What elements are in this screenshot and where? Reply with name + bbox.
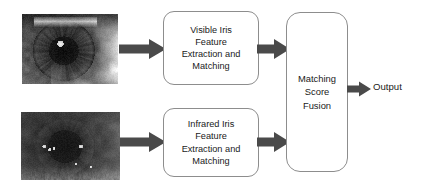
visible-processing-line-4: Matching xyxy=(192,60,229,72)
infrared-processing-box: Infrared Iris Feature Extraction and Mat… xyxy=(163,108,259,177)
arrow-fusion-to-output xyxy=(347,81,371,97)
visible-iris-image xyxy=(22,14,118,84)
fusion-line-1: Matching xyxy=(298,72,336,86)
infrared-processing-line-1: Infrared Iris xyxy=(188,118,234,130)
infrared-processing-line-4: Matching xyxy=(192,155,229,167)
matching-score-fusion-box: Matching Score Fusion xyxy=(286,12,348,172)
visible-processing-line-1: Visible Iris xyxy=(190,24,232,36)
arrow-infrared-image-to-processing xyxy=(120,131,166,153)
infrared-iris-canvas xyxy=(21,112,120,180)
output-label: Output xyxy=(373,80,402,94)
iris-fusion-diagram: Visible Iris Feature Extraction and Matc… xyxy=(0,0,427,190)
visible-processing-box: Visible Iris Feature Extraction and Matc… xyxy=(163,11,259,85)
visible-iris-canvas xyxy=(22,14,118,84)
infrared-processing-line-3: Extraction and xyxy=(182,143,241,155)
infrared-processing-line-2: Feature xyxy=(195,130,227,142)
arrow-visible-image-to-processing xyxy=(119,38,166,60)
visible-processing-line-3: Extraction and xyxy=(182,48,241,60)
infrared-iris-image xyxy=(21,112,120,180)
fusion-line-3: Fusion xyxy=(303,99,331,113)
visible-processing-line-2: Feature xyxy=(195,36,227,48)
fusion-line-2: Score xyxy=(305,85,330,99)
